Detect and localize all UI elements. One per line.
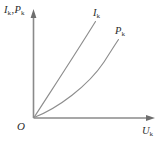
curve-current-ik <box>34 22 96 118</box>
curve-label-current-subscript: k <box>97 12 100 19</box>
origin-label: O <box>17 121 25 132</box>
curve-label-current-ik: Ik <box>93 8 100 19</box>
x-axis-label: Uk <box>142 126 153 137</box>
y-axis-label-first-subscript: k <box>8 9 11 16</box>
curve-label-current-symbol: I <box>93 7 97 18</box>
y-axis-arrow-icon <box>31 9 37 18</box>
y-axis-label-first-symbol: I <box>4 4 8 15</box>
x-axis-label-subscript: k <box>150 130 153 137</box>
short-circuit-characteristic-figure: Ik,Pk Uk O Ik Pk <box>0 0 163 145</box>
y-axis-label-second-subscript: k <box>21 9 24 16</box>
x-axis-arrow-icon <box>146 115 155 121</box>
y-axis-label: Ik,Pk <box>4 5 24 16</box>
x-axis-label-symbol: U <box>142 125 150 136</box>
curve-label-power-subscript: k <box>121 30 124 37</box>
curve-label-power-pk: Pk <box>115 26 125 37</box>
